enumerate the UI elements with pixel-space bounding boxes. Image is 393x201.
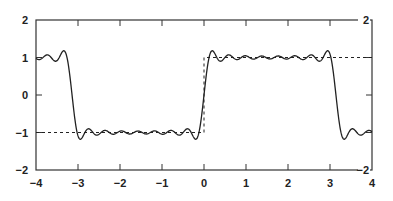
y-tick-label-right: −2 [356,164,369,176]
y-tick-label-left: 0 [22,89,28,101]
x-tick-label: 3 [327,177,333,189]
y-tick-label-left: 2 [22,14,28,26]
y-tick-label-left: −2 [15,164,28,176]
x-tick-label: −4 [30,177,43,189]
tick-labels: −4−3−2−101234210−1−22−2 [15,14,375,189]
y-tick-label-left: 1 [22,52,28,64]
x-tick-label: 4 [369,177,376,189]
x-tick-label: −3 [72,177,85,189]
x-tick-label: 0 [201,177,207,189]
x-tick-label: 2 [285,177,291,189]
x-tick-label: −2 [114,177,127,189]
fourier-square-wave-chart: −4−3−2−101234210−1−22−2 [0,0,393,201]
x-tick-label: −1 [156,177,169,189]
x-tick-label: 1 [243,177,249,189]
y-tick-label-left: −1 [15,127,28,139]
y-tick-label-right: 2 [363,14,369,26]
